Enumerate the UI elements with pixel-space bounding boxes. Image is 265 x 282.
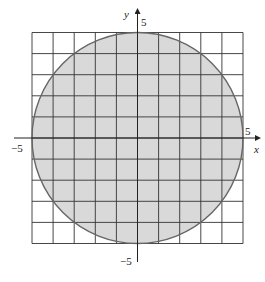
y-axis-label: y: [123, 8, 129, 20]
y-tick-5: 5: [141, 16, 147, 28]
x-axis-label: x: [253, 143, 259, 155]
x-tick-neg5: −5: [11, 142, 23, 154]
x-tick-5: 5: [245, 125, 251, 137]
disk-region-plot: y 5 5 x −5 −5: [0, 0, 265, 282]
y-tick-neg5: −5: [120, 255, 132, 267]
